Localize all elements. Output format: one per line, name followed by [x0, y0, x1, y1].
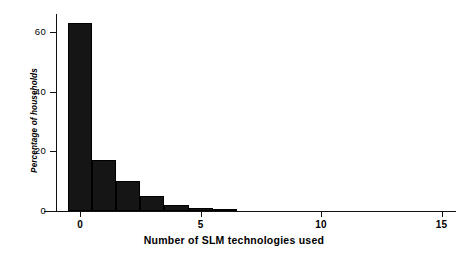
- bar: [116, 181, 140, 211]
- bar-series: [0, 0, 468, 211]
- x-axis-tick: [321, 212, 322, 217]
- x-axis-title: Number of SLM technologies used: [0, 234, 468, 246]
- x-axis-line: [44, 211, 456, 212]
- x-axis-tick: [442, 212, 443, 217]
- bar: [68, 23, 92, 211]
- x-axis-tick-label: 15: [427, 219, 457, 230]
- y-axis-tick: [50, 211, 56, 212]
- bar: [189, 208, 213, 211]
- x-axis-tick: [80, 212, 81, 217]
- x-axis-tick-label: 5: [186, 219, 216, 230]
- bar: [140, 196, 164, 211]
- bar: [92, 160, 116, 211]
- x-axis-tick-label: 0: [65, 219, 95, 230]
- x-axis-tick-label: 10: [306, 219, 336, 230]
- x-axis-tick: [201, 212, 202, 217]
- histogram-figure: Percentage of households 0204060 051015 …: [0, 0, 468, 260]
- bar: [213, 209, 237, 211]
- bar: [164, 205, 188, 211]
